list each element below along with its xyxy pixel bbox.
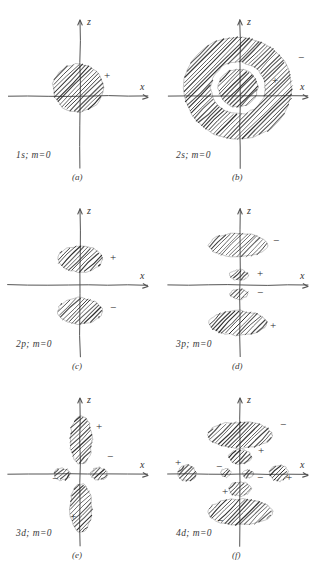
orbital-label-d: 3p; m=0 (176, 339, 212, 349)
lobe-inner-disc (218, 69, 259, 107)
panel-caption-c: (c) (72, 361, 82, 371)
orbital-panel-b: zx+−2s; m=0(b) (160, 0, 320, 191)
sign-annotation: − (257, 471, 263, 483)
orbital-panel-d: zx−+−+3p; m=0(d) (160, 189, 320, 380)
orbital-plot-c: zx+− (0, 189, 160, 380)
z-axis-label: z (246, 205, 251, 216)
orbital-plot-f: zx−++−−++− (160, 378, 320, 569)
sign-annotation: + (110, 251, 116, 263)
orbital-figure-grid: zx+1s; m=0(a)zx+−2s; m=0(b)zx+−2p; m=0(c… (0, 0, 321, 574)
sign-annotation: + (70, 510, 76, 522)
x-axis-label: x (139, 81, 145, 92)
lobe-outer-lower-lobe (209, 310, 267, 336)
orbital-label-b: 2s; m=0 (176, 150, 211, 160)
orbital-plot-a: zx+ (0, 0, 160, 191)
sign-annotation: − (257, 286, 263, 298)
lobe-outer-ring (183, 37, 292, 139)
sign-annotation: − (273, 234, 279, 246)
orbital-label-c: 2p; m=0 (16, 339, 52, 349)
z-axis-label: z (246, 394, 251, 405)
sign-annotation: − (298, 51, 304, 63)
sign-annotation: − (216, 460, 222, 472)
sign-annotation: − (107, 450, 113, 462)
lobe-s-core-lobe (52, 64, 104, 113)
sign-annotation: − (217, 514, 223, 526)
sign-annotation: + (272, 74, 278, 86)
z-axis-label: z (246, 16, 251, 27)
panel-caption-a: (a) (72, 172, 83, 182)
x-axis-label: x (299, 270, 305, 281)
orbital-plot-b: zx+− (160, 0, 320, 191)
lobe-upper-vertical-lobe (70, 416, 93, 464)
sign-annotation: + (257, 267, 263, 279)
z-axis-label: z (86, 205, 91, 216)
sign-annotation: + (175, 456, 181, 468)
x-axis-label: x (299, 459, 305, 470)
orbital-plot-e: zx+−−+ (0, 378, 160, 569)
orbital-panel-c: zx+−2p; m=0(c) (0, 189, 160, 380)
x-axis-label: x (139, 270, 145, 281)
sign-annotation: − (52, 472, 58, 484)
orbital-panel-a: zx+1s; m=0(a) (0, 0, 160, 191)
axes (8, 209, 148, 357)
sign-annotation: − (110, 301, 116, 313)
x-axis-label: x (139, 459, 145, 470)
sign-annotation: + (104, 69, 110, 81)
panel-caption-b: (b) (232, 172, 243, 182)
sign-annotation: + (258, 444, 264, 456)
lobe-inner-lower-lobe (229, 289, 248, 300)
orbital-label-e: 3d; m=0 (16, 528, 52, 538)
lobe-lower-vertical-lobe (70, 484, 93, 532)
panel-caption-f: (f) (232, 550, 241, 560)
lobe-inner-upper-lobe (229, 269, 249, 280)
sign-annotation: + (96, 420, 102, 432)
sign-annotation: − (280, 418, 286, 430)
panel-caption-e: (e) (72, 550, 82, 560)
orbital-plot-d: zx−+−+ (160, 189, 320, 380)
lobe-outer-upper-lobe (208, 233, 268, 257)
orbital-panel-f: zx−++−−++−4d; m=0(f) (160, 378, 320, 569)
orbital-label-a: 1s; m=0 (16, 150, 51, 160)
panel-caption-d: (d) (232, 361, 243, 371)
sign-annotation: + (270, 319, 276, 331)
sign-annotation: + (286, 471, 292, 483)
orbital-panel-e: zx+−−+3d; m=0(e) (0, 378, 160, 569)
x-axis-label: x (299, 81, 305, 92)
orbital-label-f: 4d; m=0 (176, 528, 212, 538)
sign-annotation: + (222, 485, 228, 497)
z-axis-label: z (86, 394, 91, 405)
z-axis-label: z (86, 16, 91, 27)
